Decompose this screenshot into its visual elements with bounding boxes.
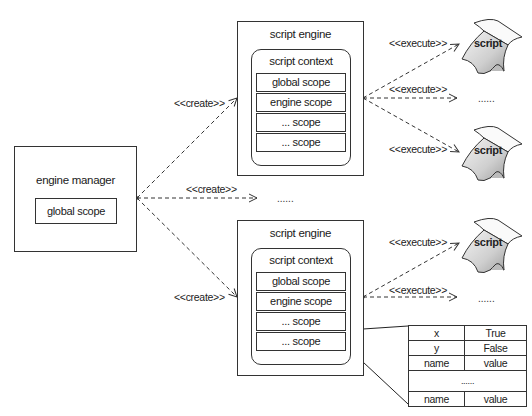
table-row: name value <box>409 392 527 407</box>
scope-engine[interactable]: engine scope <box>256 93 346 112</box>
script-engine-1[interactable]: script engine script context global scop… <box>237 21 364 176</box>
script-context[interactable]: script context global scope engine scope… <box>251 49 351 166</box>
scope-other-2[interactable]: ... scope <box>256 133 346 152</box>
create-arrow-bottom <box>137 198 237 297</box>
create-label-bottom: <<create>> <box>174 291 225 303</box>
create-label-middle: <<create>> <box>186 183 237 195</box>
table-row-ellipsis: ...... <box>409 371 527 392</box>
create-label-top: <<create>> <box>174 97 225 109</box>
script-context-title: script context <box>252 55 350 67</box>
execute-label: <<execute>> <box>389 83 447 95</box>
execute-label: <<execute>> <box>389 284 447 296</box>
scope-other-2[interactable]: ... scope <box>256 332 346 351</box>
script-engine-title: script engine <box>238 28 363 40</box>
script-document-icon[interactable]: script <box>460 15 518 73</box>
execute-ellipsis: ...... <box>478 293 495 304</box>
script-context[interactable]: script context global scope engine scope… <box>251 248 351 365</box>
script-engine-2[interactable]: script engine script context global scop… <box>237 220 364 376</box>
execute-label: <<execute>> <box>389 143 447 155</box>
script-engine-title: script engine <box>238 227 363 239</box>
table-row: name value <box>409 356 527 371</box>
scope-other-1[interactable]: ... scope <box>256 113 346 132</box>
script-context-title: script context <box>252 254 350 266</box>
execute-label: <<execute>> <box>389 37 447 49</box>
execute-ellipsis: ...... <box>478 93 495 104</box>
scope-global[interactable]: global scope <box>256 73 346 92</box>
engine-manager-title: engine manager <box>15 174 136 186</box>
script-document-icon[interactable]: script <box>460 214 518 272</box>
execute-label: <<execute>> <box>389 236 447 248</box>
table-row: y False <box>409 341 527 356</box>
bindings-table: x True y False name value ...... name va… <box>408 325 527 407</box>
scope-other-1[interactable]: ... scope <box>256 312 346 331</box>
engine-manager[interactable]: engine manager global scope <box>14 146 137 252</box>
engine-manager-global-scope[interactable]: global scope <box>35 198 117 224</box>
table-row: x True <box>409 326 527 341</box>
create-ellipsis: ...... <box>277 193 294 204</box>
scope-engine[interactable]: engine scope <box>256 292 346 311</box>
scope-global[interactable]: global scope <box>256 272 346 291</box>
script-document-icon[interactable]: script <box>460 122 518 180</box>
